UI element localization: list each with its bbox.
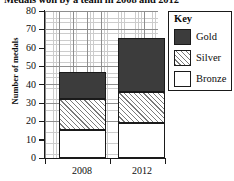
y-tick-label-50: 50 bbox=[14, 60, 36, 71]
x-tick-label-2008: 2008 bbox=[62, 165, 102, 176]
bar-2012-silver bbox=[118, 92, 165, 123]
x-tick-label-2012: 2012 bbox=[122, 165, 162, 176]
y-tick-label-20: 20 bbox=[14, 115, 36, 126]
bar-2008-bronze bbox=[59, 130, 106, 158]
y-tick-50 bbox=[39, 66, 45, 67]
y-tick-label-80: 80 bbox=[14, 5, 36, 16]
y-tick-30 bbox=[39, 103, 45, 104]
chart-figure: Medals won by a team in 2008 and 2012 Nu… bbox=[0, 0, 234, 181]
plot-area bbox=[45, 11, 158, 158]
y-tick-70 bbox=[39, 29, 45, 30]
bar-2012-bronze bbox=[118, 123, 165, 158]
legend-title: Key bbox=[174, 13, 192, 24]
legend-swatch-silver bbox=[174, 50, 191, 66]
bar-2008-gold bbox=[59, 72, 106, 100]
y-tick-label-30: 30 bbox=[14, 97, 36, 108]
y-tick-10 bbox=[39, 139, 45, 140]
y-tick-label-0: 0 bbox=[14, 152, 36, 163]
bar-2008-silver bbox=[59, 99, 106, 130]
legend-swatch-bronze bbox=[174, 71, 191, 87]
bar-2012-gold bbox=[118, 38, 165, 91]
x-tick-left bbox=[45, 158, 46, 164]
y-tick-label-40: 40 bbox=[14, 79, 36, 90]
x-axis-line bbox=[44, 158, 166, 159]
y-tick-label-10: 10 bbox=[14, 134, 36, 145]
y-tick-40 bbox=[39, 84, 45, 85]
legend-key-box: Key Gold Silver Bronze bbox=[168, 11, 232, 91]
y-tick-80 bbox=[39, 11, 45, 12]
y-tick-20 bbox=[39, 121, 45, 122]
legend-label-gold: Gold bbox=[196, 31, 217, 42]
x-tick-mid bbox=[110, 158, 111, 164]
y-tick-label-70: 70 bbox=[14, 23, 36, 34]
legend-label-bronze: Bronze bbox=[196, 73, 226, 84]
x-tick-right bbox=[165, 158, 166, 164]
y-tick-60 bbox=[39, 48, 45, 49]
legend-label-silver: Silver bbox=[196, 52, 221, 63]
y-tick-label-60: 60 bbox=[14, 42, 36, 53]
legend-swatch-gold bbox=[174, 29, 191, 45]
